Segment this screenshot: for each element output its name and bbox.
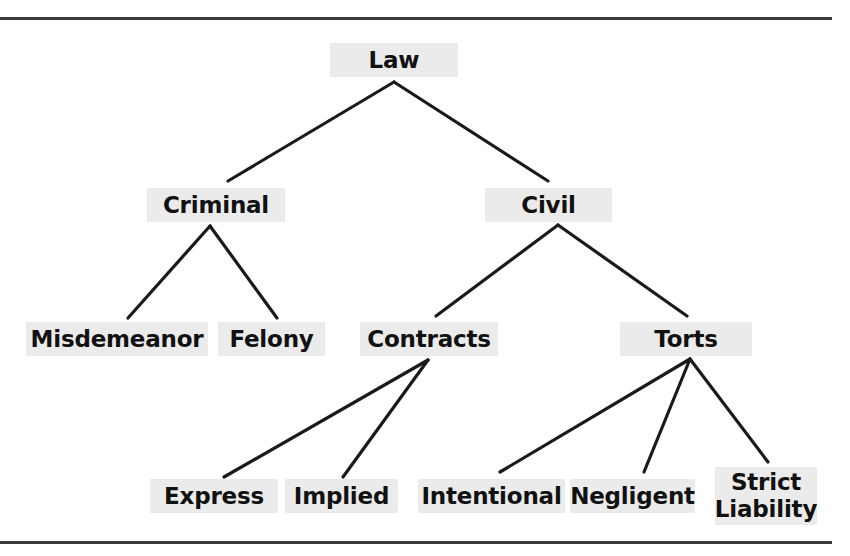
tree-node-negligent: Negligent <box>570 479 695 513</box>
tree-edge-contracts-to-express <box>224 360 428 477</box>
tree-edge-law-to-civil <box>394 82 548 181</box>
tree-node-law: Law <box>330 43 458 77</box>
tree-node-intentional: Intentional <box>418 479 565 513</box>
tree-node-civil: Civil <box>485 188 612 222</box>
tree-edge-torts-to-strict <box>690 359 768 462</box>
tree-edge-civil-to-contracts <box>436 225 558 316</box>
tree-edge-torts-to-negligent <box>644 359 690 472</box>
tree-edge-criminal-to-felony <box>210 226 277 318</box>
tree-node-criminal: Criminal <box>147 188 285 222</box>
tree-edge-torts-to-intentional <box>500 359 690 472</box>
tree-edge-contracts-to-implied <box>343 360 428 477</box>
tree-edge-criminal-to-misdemeanor <box>128 226 210 318</box>
tree-node-contracts: Contracts <box>360 322 498 356</box>
tree-node-torts: Torts <box>620 322 752 356</box>
tree-node-implied: Implied <box>285 479 398 513</box>
tree-node-misdemeanor: Misdemeanor <box>26 322 208 356</box>
tree-edge-law-to-criminal <box>228 82 394 181</box>
tree-node-express: Express <box>150 479 278 513</box>
diagram-canvas: LawCriminalCivilMisdemeanorFelonyContrac… <box>0 0 850 556</box>
tree-node-strict: Strict Liability <box>715 467 817 525</box>
tree-node-felony: Felony <box>218 322 325 356</box>
tree-edge-civil-to-torts <box>558 225 687 316</box>
